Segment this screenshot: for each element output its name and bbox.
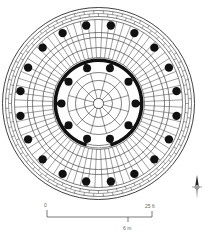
radial-line — [42, 60, 62, 75]
radial-line — [83, 34, 88, 58]
column — [130, 29, 138, 37]
radial-line — [21, 71, 33, 76]
radial-line — [120, 23, 124, 35]
radial-line — [169, 107, 182, 108]
column — [82, 177, 90, 185]
radial-line — [108, 148, 113, 172]
scale-metric-label: 6 m — [123, 226, 131, 231]
doorway-threshold — [86, 146, 111, 148]
radial-line — [127, 140, 142, 160]
column — [130, 170, 138, 178]
radial-line — [95, 20, 96, 33]
radial-line — [95, 149, 96, 174]
radial-line — [102, 174, 103, 187]
radial-line — [144, 100, 169, 101]
column — [24, 63, 32, 71]
radial-line — [126, 169, 131, 181]
radial-line — [90, 74, 97, 99]
radial-line — [28, 106, 53, 107]
radial-line — [46, 56, 64, 73]
radial-line — [32, 147, 42, 155]
column — [107, 177, 115, 185]
radial-line — [132, 135, 150, 152]
doorway-threshold — [87, 144, 110, 146]
radial-line — [69, 95, 94, 102]
radial-line — [127, 47, 142, 67]
column — [172, 112, 180, 120]
radial-line — [55, 47, 70, 67]
column — [107, 21, 115, 29]
radial-line — [108, 34, 113, 58]
column — [150, 43, 158, 51]
radial-line — [120, 171, 124, 183]
radial-line — [103, 105, 128, 112]
radial-line — [42, 132, 62, 147]
column — [82, 21, 90, 29]
column — [16, 87, 24, 95]
radial-line — [51, 51, 68, 69]
north-arrow-icon — [192, 175, 202, 199]
radial-line — [130, 51, 147, 69]
radial-line — [90, 108, 97, 133]
radial-line — [83, 148, 88, 172]
radial-line — [144, 110, 169, 113]
radial-line — [105, 33, 108, 58]
scale-feet-label: 25 ft — [145, 204, 155, 209]
radial-line — [18, 125, 30, 129]
radial-line — [66, 26, 71, 38]
radial-line — [126, 26, 131, 38]
radial-line — [28, 110, 53, 113]
radial-line — [89, 33, 92, 58]
column — [16, 112, 24, 120]
radial-line — [143, 113, 167, 118]
radial-line — [102, 20, 103, 33]
radial-line — [101, 33, 102, 58]
radial-line — [142, 37, 150, 47]
radial-line — [15, 107, 28, 108]
radial-line — [155, 52, 165, 60]
radial-line — [100, 108, 107, 133]
radial-line — [29, 113, 53, 118]
radial-line — [89, 149, 92, 174]
radial-line — [143, 88, 167, 93]
radial-line — [164, 131, 176, 136]
radial-line — [142, 160, 150, 170]
radial-line — [47, 160, 55, 170]
scale-zero-label: 0 — [44, 203, 47, 208]
radial-line — [73, 171, 77, 183]
radial-line — [135, 60, 155, 75]
radial-line — [130, 137, 147, 155]
radial-line — [144, 94, 169, 97]
radial-line — [132, 56, 150, 73]
radial-line — [66, 169, 71, 181]
concentric-rings — [3, 8, 195, 200]
radial-line — [51, 137, 68, 155]
radial-line — [105, 149, 108, 174]
column — [172, 87, 180, 95]
radial-line — [28, 100, 53, 101]
radial-line — [55, 140, 70, 160]
radial-line — [95, 174, 96, 187]
column — [58, 29, 66, 37]
radial-line — [135, 132, 155, 147]
floor-plan — [0, 0, 209, 234]
radial-line — [28, 94, 53, 97]
radial-line — [139, 125, 161, 137]
radial-line — [47, 37, 55, 47]
radial-line — [95, 33, 96, 58]
column — [150, 155, 158, 163]
radial-line — [155, 147, 165, 155]
column — [38, 155, 46, 163]
column — [38, 43, 46, 51]
radial-line — [18, 78, 30, 82]
radial-line — [36, 125, 58, 137]
radial-line — [21, 131, 33, 136]
column — [165, 135, 173, 143]
scale-bar — [47, 210, 152, 222]
radial-line — [66, 41, 78, 63]
column — [24, 135, 32, 143]
radial-line — [15, 100, 28, 101]
radial-line — [103, 95, 128, 102]
column — [58, 170, 66, 178]
radial-line — [66, 144, 78, 166]
